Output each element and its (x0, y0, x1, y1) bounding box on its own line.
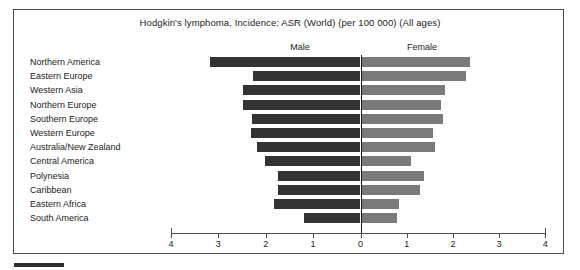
axis-tick-label: 3 (487, 239, 511, 249)
axis-tick (545, 233, 546, 238)
axis-tick (407, 233, 408, 238)
bar-male (251, 128, 360, 138)
bar-female (362, 85, 446, 95)
bar-female (362, 142, 436, 152)
bar-male (210, 57, 361, 67)
bar-row: Central America (0, 155, 580, 169)
axis-tick-label: 4 (159, 239, 183, 249)
axis-tick-label: 0 (349, 239, 373, 249)
axis-tick (171, 233, 172, 238)
axis-tick (499, 233, 500, 238)
axis-tick-label: 3 (206, 239, 230, 249)
category-label: Central America (30, 155, 190, 168)
figure-container: Hodgkin's lymphoma, Incidence: ASR (Worl… (0, 0, 580, 270)
axis-tick-label: 1 (301, 239, 325, 249)
axis-tick (453, 233, 454, 238)
bar-male (243, 85, 361, 95)
legend-label-male: Male (240, 42, 360, 52)
axis-tick-label: 1 (395, 239, 419, 249)
bar-female (362, 199, 400, 209)
bar-male (274, 199, 361, 209)
bar-rows: Northern AmericaEastern EuropeWestern As… (0, 56, 580, 226)
bar-male (243, 100, 361, 110)
bar-row: Western Asia (0, 84, 580, 98)
axis-tick (266, 233, 267, 238)
category-label: Caribbean (30, 184, 190, 197)
category-label: Northern America (30, 56, 190, 69)
bar-row: Polynesia (0, 170, 580, 184)
bar-male (265, 156, 361, 166)
bar-row: Southern Europe (0, 113, 580, 127)
bar-row: Western Europe (0, 127, 580, 141)
bar-female (362, 185, 421, 195)
bar-female (362, 114, 444, 124)
category-label: Western Asia (30, 84, 190, 97)
axis-tick (218, 233, 219, 238)
category-label: Polynesia (30, 170, 190, 183)
bar-female (362, 71, 467, 81)
bar-row: Caribbean (0, 184, 580, 198)
x-axis-line (171, 233, 546, 234)
category-label: Eastern Europe (30, 70, 190, 83)
bar-male (278, 185, 361, 195)
category-label: Southern Europe (30, 113, 190, 126)
bar-row: South America (0, 212, 580, 226)
category-label: Northern Europe (30, 99, 190, 112)
bar-row: Australia/New Zealand (0, 141, 580, 155)
bar-female (362, 171, 424, 181)
footer-marker-bar (14, 263, 64, 267)
bar-female (362, 100, 442, 110)
bar-row: Northern America (0, 56, 580, 70)
legend-label-female: Female (362, 42, 482, 52)
bar-male (252, 114, 361, 124)
plot-area: Male Female Northern AmericaEastern Euro… (0, 0, 580, 270)
zero-axis-line (361, 55, 362, 234)
axis-tick-label: 4 (533, 239, 557, 249)
category-label: South America (30, 212, 190, 225)
bar-female (362, 57, 471, 67)
axis-tick-label: 2 (441, 239, 465, 249)
bar-row: Eastern Africa (0, 198, 580, 212)
bar-row: Northern Europe (0, 99, 580, 113)
bar-row: Eastern Europe (0, 70, 580, 84)
bar-male (304, 213, 361, 223)
axis-tick (313, 233, 314, 238)
bar-female (362, 156, 412, 166)
category-label: Western Europe (30, 127, 190, 140)
category-label: Eastern Africa (30, 198, 190, 211)
bar-female (362, 213, 398, 223)
category-label: Australia/New Zealand (30, 141, 190, 154)
axis-tick (361, 233, 362, 238)
bar-male (253, 71, 361, 81)
bar-male (257, 142, 361, 152)
bar-male (278, 171, 361, 181)
axis-tick-label: 2 (254, 239, 278, 249)
bar-female (362, 128, 434, 138)
